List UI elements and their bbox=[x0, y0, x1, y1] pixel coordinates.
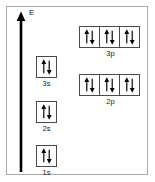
orbital-box[interactable] bbox=[36, 56, 57, 78]
orbital-energy-diagram: E 3s bbox=[0, 0, 155, 182]
energy-axis-label: E bbox=[29, 8, 34, 18]
orbital-box-row-2p bbox=[79, 74, 142, 96]
spin-pair-icon bbox=[37, 102, 56, 122]
orbital-box[interactable] bbox=[119, 74, 140, 96]
orbital-box[interactable] bbox=[99, 74, 120, 96]
orbital-box-row-3s bbox=[36, 56, 57, 78]
orbital-box[interactable] bbox=[36, 101, 57, 123]
subshell-label-3p: 3p bbox=[79, 49, 142, 58]
orbital-box[interactable] bbox=[79, 26, 100, 48]
spin-pair-icon bbox=[120, 75, 139, 95]
subshell-3p: 3p bbox=[79, 26, 142, 58]
subshell-label-2p: 2p bbox=[79, 97, 142, 106]
spin-pair-icon bbox=[80, 75, 99, 95]
orbital-box[interactable] bbox=[99, 26, 120, 48]
energy-arrow-icon bbox=[14, 10, 28, 174]
subshell-2p: 2p bbox=[79, 74, 142, 106]
spin-pair-icon bbox=[100, 75, 119, 95]
subshell-3s: 3s bbox=[36, 56, 57, 88]
spin-pair-icon bbox=[120, 27, 139, 47]
spin-pair-icon bbox=[37, 57, 56, 77]
spin-pair-icon bbox=[100, 27, 119, 47]
subshell-label-1s: 1s bbox=[36, 168, 57, 177]
orbital-box-row-3p bbox=[79, 26, 142, 48]
spin-pair-icon bbox=[80, 27, 99, 47]
subshell-2s: 2s bbox=[36, 101, 57, 133]
subshell-label-2s: 2s bbox=[36, 124, 57, 133]
orbital-box-row-1s bbox=[36, 145, 57, 167]
energy-axis-arrow bbox=[14, 10, 28, 174]
orbital-box[interactable] bbox=[36, 145, 57, 167]
subshell-label-3s: 3s bbox=[36, 79, 57, 88]
orbital-box[interactable] bbox=[119, 26, 140, 48]
orbital-box-row-2s bbox=[36, 101, 57, 123]
spin-pair-icon bbox=[37, 146, 56, 166]
orbital-box[interactable] bbox=[79, 74, 100, 96]
subshell-1s: 1s bbox=[36, 145, 57, 177]
